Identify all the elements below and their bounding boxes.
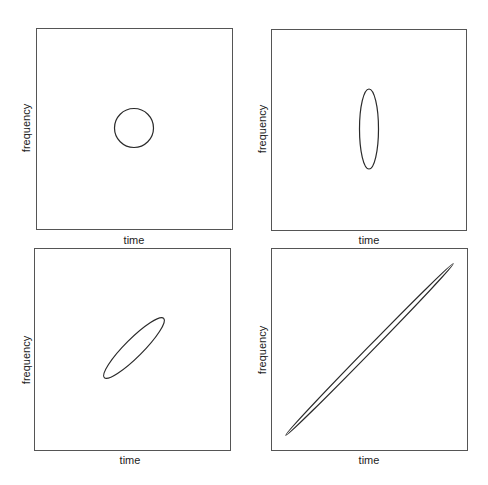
tf-ellipse-tilted	[98, 312, 170, 384]
panel-bottom-right: time frequency	[256, 249, 468, 467]
y-axis-label: frequency	[256, 325, 268, 374]
plot-frame	[272, 30, 467, 231]
x-axis-label: time	[359, 234, 380, 246]
panel-top-left: time frequency	[20, 29, 233, 247]
x-axis-label: time	[124, 234, 145, 246]
plot-frame	[272, 249, 468, 451]
tf-ellipse-vertical	[360, 89, 379, 169]
y-axis-label: frequency	[256, 104, 268, 153]
plot-frame	[35, 249, 231, 451]
x-axis-label: time	[120, 454, 141, 466]
tf-ellipse-chirp	[284, 262, 455, 437]
panel-bottom-left: time frequency	[20, 249, 231, 467]
panel-top-right: time frequency	[256, 30, 467, 247]
plot-frame	[37, 29, 233, 230]
tf-circle	[115, 109, 154, 148]
x-axis-label: time	[359, 454, 380, 466]
figure: time frequency time frequency time frequ…	[0, 0, 488, 485]
y-axis-label: frequency	[20, 103, 32, 152]
y-axis-label: frequency	[20, 335, 32, 384]
